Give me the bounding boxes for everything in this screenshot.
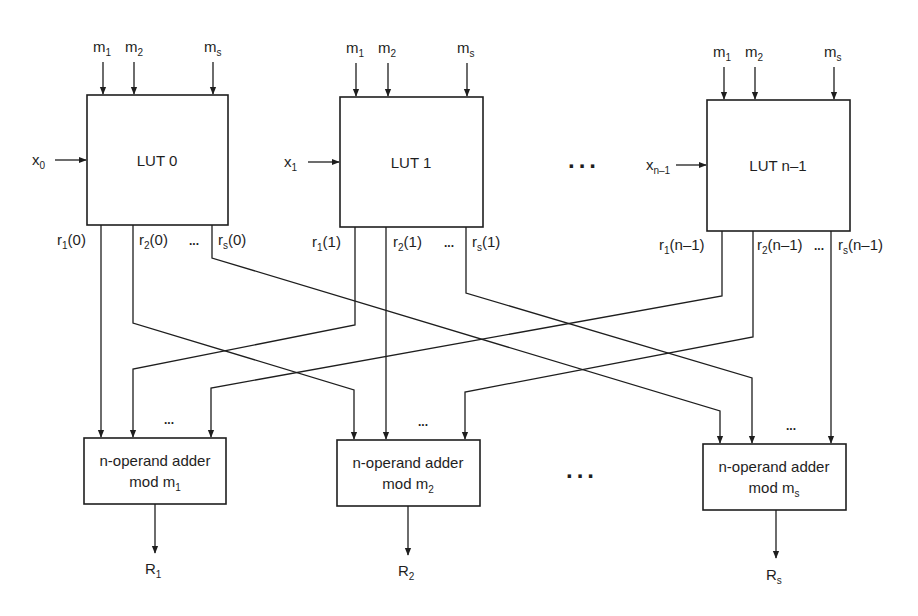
interconnect-wires — [101, 225, 831, 443]
result-1-label: R1 — [145, 560, 162, 580]
lut-1-m2-label: m2 — [378, 39, 397, 59]
lut-0-r1-label: r1(0) — [57, 231, 86, 251]
adder-2-line1: n-operand adder — [353, 454, 464, 471]
lut-1: LUT 1 m1 m2 ms x1 r1(1) r2(1) ... rs(1) — [284, 39, 500, 253]
adder-s-line1: n-operand adder — [719, 458, 830, 475]
rns-converter-diagram: LUT 0 m1 m2 ms x0 r1(0) r2(0) ... rs(0) … — [0, 0, 918, 616]
adder-1-line1: n-operand adder — [100, 452, 211, 469]
lut-0-label: LUT 0 — [137, 152, 178, 169]
lut-n-1-r2-label: r2(n–1) — [757, 236, 803, 256]
adder-1-input-ellipsis: ... — [164, 413, 174, 427]
lut-1-ms-label: ms — [457, 39, 475, 59]
lut-n-1-m1-label: m1 — [713, 43, 732, 63]
adder-1-box — [84, 438, 226, 504]
lut-1-x-label: x1 — [284, 153, 298, 173]
lut-1-r2-label: r2(1) — [393, 233, 422, 253]
lut-n-1-x-label: xn–1 — [646, 156, 671, 176]
lut-ellipsis: ... — [568, 146, 600, 173]
lut-n-1-ellipsis: ... — [814, 239, 824, 253]
result-s-label: Rs — [766, 566, 782, 586]
lut-0: LUT 0 m1 m2 ms x0 r1(0) r2(0) ... rs(0) — [32, 38, 246, 251]
lut-0-r2-label: r2(0) — [139, 231, 168, 251]
adder-2: n-operand adder mod m2 R2 — [337, 440, 480, 582]
lut-n-1-label: LUT n–1 — [749, 157, 806, 174]
lut-n-1-ms-label: ms — [824, 43, 842, 63]
wire-r1-1-to-adder-1 — [133, 227, 355, 437]
lut-n-1: LUT n–1 m1 m2 ms xn–1 r1(n–1) r2(n–1) ..… — [646, 43, 883, 256]
lut-1-label: LUT 1 — [391, 154, 432, 171]
adder-2-box — [337, 440, 480, 506]
adder-s-box — [703, 444, 846, 510]
lut-n-1-r1-label: r1(n–1) — [659, 236, 705, 256]
lut-n-1-rs-label: rs(n–1) — [838, 236, 883, 256]
lut-n-1-m2-label: m2 — [745, 43, 764, 63]
lut-1-ellipsis: ... — [444, 236, 454, 250]
adder-ellipsis: ... — [566, 456, 598, 483]
lut-0-rs-label: rs(0) — [218, 231, 246, 251]
lut-0-ms-label: ms — [204, 38, 222, 58]
adder-s-input-ellipsis: ... — [786, 419, 796, 433]
adder-2-input-ellipsis: ... — [418, 415, 428, 429]
lut-0-m1-label: m1 — [93, 38, 112, 58]
lut-1-rs-label: rs(1) — [472, 233, 500, 253]
lut-0-ellipsis: ... — [189, 234, 199, 248]
adder-1: n-operand adder mod m1 R1 — [84, 438, 226, 580]
lut-0-x-label: x0 — [32, 151, 46, 171]
lut-1-m1-label: m1 — [346, 39, 365, 59]
adder-s: n-operand adder mod ms Rs — [703, 444, 846, 586]
lut-0-m2-label: m2 — [125, 38, 144, 58]
lut-1-r1-label: r1(1) — [312, 233, 341, 253]
result-2-label: R2 — [398, 562, 415, 582]
